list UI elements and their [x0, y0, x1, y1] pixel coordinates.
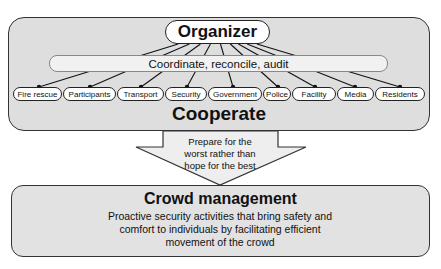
stakeholder-label: Government: [213, 90, 257, 99]
stakeholder-residents: Residents: [375, 87, 425, 101]
stakeholder-label: Participants: [69, 90, 111, 99]
stakeholder-media: Media: [337, 87, 374, 101]
stakeholder-label: Security: [172, 90, 201, 99]
coordinate-reconcile-audit-bar: Coordinate, reconcile, audit: [49, 55, 388, 72]
stakeholder-label: Residents: [382, 90, 418, 99]
stakeholder-label: Police: [266, 90, 288, 99]
crowd-management-description: Proactive security activities that bring…: [90, 210, 350, 249]
stakeholder-label: Transport: [124, 90, 158, 99]
organizer-node: Organizer: [165, 20, 270, 44]
arrow-caption-line: Prepare for the: [170, 136, 270, 148]
crowd-management-title: Crowd management: [11, 190, 430, 208]
stakeholder-participants: Participants: [63, 87, 116, 101]
stakeholder-facility: Facility: [292, 87, 336, 101]
arrow-caption-line: hope for the best: [170, 160, 270, 172]
description-line: movement of the crowd: [90, 236, 350, 249]
description-line: comfort to individuals by facilitating e…: [90, 223, 350, 236]
coordinate-label: Coordinate, reconcile, audit: [149, 58, 289, 70]
stakeholder-label: Media: [345, 90, 367, 99]
description-line: Proactive security activities that bring…: [90, 210, 350, 223]
arrow-caption-line: worst rather than: [170, 148, 270, 160]
organizer-label: Organizer: [178, 22, 257, 42]
stakeholder-government: Government: [208, 87, 262, 101]
stakeholder-label: Fire rescue: [17, 90, 57, 99]
stakeholder-police: Police: [263, 87, 291, 101]
arrow-caption: Prepare for the worst rather than hope f…: [170, 136, 270, 172]
stakeholder-transport: Transport: [117, 87, 164, 101]
stakeholder-security: Security: [165, 87, 207, 101]
stakeholder-label: Facility: [302, 90, 327, 99]
stakeholder-fire-rescue: Fire rescue: [13, 87, 62, 101]
cooperate-heading: Cooperate: [8, 103, 430, 125]
